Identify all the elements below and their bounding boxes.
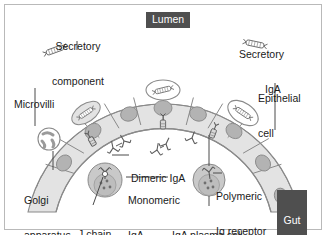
label-secretory-component-line2: component (52, 76, 104, 88)
label-microvilli: Microvilli (14, 76, 54, 134)
badge-gut-wall-line1: Gut (283, 215, 301, 227)
label-secretory-component: Secretory component (52, 18, 104, 110)
label-secretory-component-line1: Secretory (52, 41, 104, 53)
label-microvilli-line1: Microvilli (14, 99, 54, 111)
label-j-chain: J chain (78, 206, 111, 235)
label-golgi-apparatus-line2: apparatus (24, 230, 71, 236)
label-golgi-apparatus-line1: Golgi (24, 195, 71, 207)
label-iga-plasma-cell-line1: IgA plasma cell (172, 230, 243, 235)
label-j-chain-line1: J chain (78, 229, 111, 235)
label-epithelial-cell-line2: cell (258, 128, 301, 140)
plasma-cell-left (88, 163, 122, 197)
badge-gut-wall: Gut wall (277, 190, 307, 235)
label-iga-plasma-cell: IgA plasma cell (172, 207, 243, 235)
label-epithelial-cell-line1: Epithelial (258, 93, 301, 105)
label-golgi-apparatus: Golgi apparatus (24, 172, 71, 235)
label-epithelial-cell: Epithelial cell (258, 70, 301, 162)
label-secretory-iga-line1: Secretory (239, 49, 284, 61)
label-monomeric-iga-line1: Monomeric (128, 195, 180, 207)
label-polymeric-ig-receptor-line1: Polymeric (216, 191, 266, 203)
figure-canvas: Secretory component Secretory IgA Microv… (0, 0, 327, 235)
badge-lumen: Lumen (146, 12, 190, 28)
